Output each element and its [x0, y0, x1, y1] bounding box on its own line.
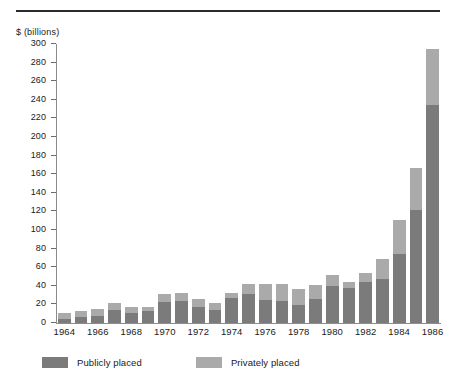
bar-group[interactable] [376, 259, 389, 323]
legend-swatch [196, 357, 222, 368]
bar-segment-publicly-placed[interactable] [209, 310, 222, 323]
x-tick-label: 1966 [82, 326, 114, 337]
x-tick-label: 1982 [350, 326, 382, 337]
bar-group[interactable] [326, 275, 339, 323]
bar-group[interactable] [410, 168, 423, 323]
bar-segment-privately-placed[interactable] [309, 285, 322, 299]
bar-group[interactable] [125, 307, 138, 323]
bar-segment-privately-placed[interactable] [326, 275, 339, 286]
x-tick-label: 1978 [283, 326, 315, 337]
bar-segment-publicly-placed[interactable] [376, 279, 389, 323]
bar-segment-privately-placed[interactable] [108, 303, 121, 310]
bar-segment-publicly-placed[interactable] [192, 307, 205, 323]
bar-segment-publicly-placed[interactable] [292, 305, 305, 323]
bar-segment-publicly-placed[interactable] [142, 311, 155, 323]
bar-group[interactable] [426, 49, 439, 323]
bar-group[interactable] [158, 294, 171, 323]
bar-segment-privately-placed[interactable] [276, 284, 289, 301]
bar-group[interactable] [209, 303, 222, 323]
y-tick-label: 100 [0, 224, 46, 234]
bar-segment-publicly-placed[interactable] [343, 288, 356, 323]
bar-group[interactable] [359, 273, 372, 323]
bar-series-layer [56, 44, 441, 323]
bar-group[interactable] [175, 293, 188, 323]
bar-segment-privately-placed[interactable] [158, 294, 171, 301]
y-tick-label: 20 [0, 298, 46, 308]
bar-group[interactable] [393, 220, 406, 323]
y-tick-label: 120 [0, 205, 46, 215]
bar-segment-privately-placed[interactable] [209, 303, 222, 310]
bar-group[interactable] [292, 289, 305, 323]
bar-segment-publicly-placed[interactable] [225, 298, 238, 323]
bar-segment-publicly-placed[interactable] [75, 317, 88, 323]
bar-segment-privately-placed[interactable] [192, 299, 205, 307]
chart-legend: Publicly placedPrivately placed [42, 357, 300, 368]
bar-segment-publicly-placed[interactable] [58, 319, 71, 323]
bar-group[interactable] [108, 303, 121, 323]
bar-segment-publicly-placed[interactable] [108, 310, 121, 323]
bar-segment-publicly-placed[interactable] [259, 300, 272, 323]
bar-group[interactable] [276, 284, 289, 323]
legend-item[interactable]: Privately placed [196, 357, 300, 368]
bar-group[interactable] [58, 313, 71, 323]
bar-group[interactable] [343, 282, 356, 323]
bar-group[interactable] [192, 299, 205, 323]
y-tick-label: 220 [0, 112, 46, 122]
header-rule [16, 10, 440, 12]
bar-segment-publicly-placed[interactable] [91, 316, 104, 323]
x-axis-line [56, 323, 441, 324]
bar-segment-privately-placed[interactable] [292, 289, 305, 306]
x-tick-label: 1980 [316, 326, 348, 337]
bar-segment-publicly-placed[interactable] [125, 313, 138, 323]
legend-label: Publicly placed [77, 357, 142, 368]
x-tick-label: 1986 [417, 326, 449, 337]
bar-group[interactable] [225, 293, 238, 323]
bar-segment-publicly-placed[interactable] [426, 105, 439, 323]
bar-segment-privately-placed[interactable] [58, 313, 71, 320]
bar-segment-privately-placed[interactable] [242, 284, 255, 294]
legend-label: Privately placed [231, 357, 300, 368]
bar-segment-privately-placed[interactable] [410, 168, 423, 211]
bar-segment-publicly-placed[interactable] [276, 301, 289, 323]
bar-segment-privately-placed[interactable] [393, 220, 406, 254]
y-tick-label: 40 [0, 280, 46, 290]
y-tick-label: 260 [0, 75, 46, 85]
bar-segment-privately-placed[interactable] [343, 282, 356, 288]
y-tick-label: 160 [0, 168, 46, 178]
bar-segment-privately-placed[interactable] [359, 273, 372, 282]
bar-group[interactable] [91, 309, 104, 323]
bar-segment-privately-placed[interactable] [225, 293, 238, 298]
bar-segment-privately-placed[interactable] [125, 307, 138, 313]
bar-group[interactable] [142, 307, 155, 323]
bar-segment-privately-placed[interactable] [259, 284, 272, 300]
bar-segment-privately-placed[interactable] [142, 307, 155, 311]
bar-segment-privately-placed[interactable] [175, 293, 188, 300]
y-tick-label: 300 [0, 38, 46, 48]
bar-group[interactable] [242, 284, 255, 323]
bar-segment-publicly-placed[interactable] [359, 282, 372, 323]
y-tick-label: 60 [0, 261, 46, 271]
bar-group[interactable] [309, 285, 322, 323]
bar-segment-privately-placed[interactable] [376, 259, 389, 279]
legend-item[interactable]: Publicly placed [42, 357, 142, 368]
bar-segment-publicly-placed[interactable] [175, 301, 188, 323]
bar-segment-publicly-placed[interactable] [242, 294, 255, 323]
y-axis-label: $ (billions) [16, 27, 59, 37]
bar-segment-publicly-placed[interactable] [393, 254, 406, 323]
y-tick-label: 0 [0, 317, 46, 327]
x-tick-label: 1984 [383, 326, 415, 337]
x-tick-label: 1972 [182, 326, 214, 337]
y-tick-label: 240 [0, 94, 46, 104]
x-tick-label: 1970 [149, 326, 181, 337]
bar-segment-privately-placed[interactable] [426, 49, 439, 106]
bar-segment-publicly-placed[interactable] [158, 302, 171, 323]
bar-segment-publicly-placed[interactable] [309, 299, 322, 323]
bar-segment-privately-placed[interactable] [75, 311, 88, 318]
x-axis-ticks: 1964196619681970197219741976197819801982… [56, 326, 441, 342]
bar-segment-publicly-placed[interactable] [410, 210, 423, 323]
bar-group[interactable] [259, 284, 272, 323]
y-tick-label: 180 [0, 150, 46, 160]
bar-group[interactable] [75, 311, 88, 323]
bar-segment-privately-placed[interactable] [91, 309, 104, 316]
bar-segment-publicly-placed[interactable] [326, 286, 339, 323]
